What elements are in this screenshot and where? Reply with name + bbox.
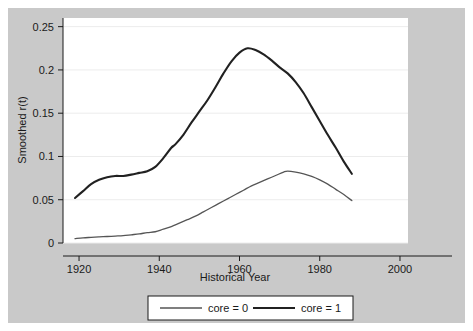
x-tick-label: 1920: [67, 263, 91, 275]
y-tick-label: 0.05: [33, 194, 54, 206]
legend-label-core-0: core = 0: [208, 302, 248, 314]
legend-label-core-1: core = 1: [301, 302, 341, 314]
y-axis-title: Smoothed r(t): [16, 96, 28, 163]
chart-screenshot: 00.050.10.150.20.25 19201940196019802000…: [0, 0, 473, 331]
legend: core = 0 core = 1: [148, 296, 353, 320]
y-tick-label: 0: [48, 237, 54, 249]
y-tick-label: 0.25: [33, 21, 54, 33]
line-chart-svg: 00.050.10.150.20.25 19201940196019802000…: [0, 0, 473, 331]
y-tick-label: 0.2: [39, 64, 54, 76]
x-tick-label: 1980: [308, 263, 332, 275]
x-tick-label: 2000: [388, 263, 412, 275]
y-tick-label: 0.15: [33, 107, 54, 119]
y-tick-label: 0.1: [39, 150, 54, 162]
x-axis-title: Historical Year: [200, 271, 271, 283]
chart-canvas: 00.050.10.150.20.25 19201940196019802000…: [0, 0, 473, 331]
plot-area-background: [63, 18, 408, 243]
x-tick-label: 1940: [147, 263, 171, 275]
